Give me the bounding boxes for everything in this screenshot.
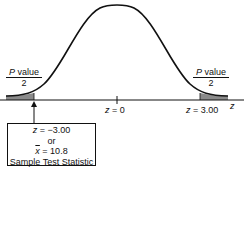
xbar-value: = 10.8 (40, 146, 68, 156)
z-value: = 0 (110, 105, 125, 115)
value-word: value (15, 67, 39, 77)
axis-variable-label: z (230, 101, 235, 111)
right-z-label: z = 3.00 (186, 105, 218, 115)
right-p-value-label: P value 2 (193, 67, 229, 88)
center-z-label: z = 0 (105, 105, 125, 115)
z-value: = −3.00 (37, 125, 70, 135)
denominator: 2 (193, 78, 229, 88)
box-line-xbar: x = 10.8 (8, 146, 95, 157)
sample-test-statistic-box: z = −3.00 or x = 10.8 Sample Test Statis… (7, 123, 96, 166)
z-value: = 3.00 (191, 105, 219, 115)
box-line-caption: Sample Test Statistic (8, 157, 95, 168)
left-p-value-label: P value 2 (6, 67, 42, 88)
denominator: 2 (6, 78, 42, 88)
box-line-or: or (8, 136, 95, 147)
arrow-head-icon (31, 101, 37, 107)
value-word: value (202, 67, 226, 77)
box-line-z: z = −3.00 (8, 125, 95, 136)
